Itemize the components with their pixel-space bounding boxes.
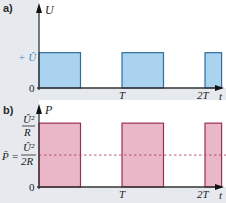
panel-a-y-tick-0: 0 <box>29 82 35 94</box>
panel-b-mean-label-numerator: Û² <box>23 141 35 153</box>
panel-a-x-tick-2T: 2T <box>197 89 210 101</box>
panel-a-y-label: U <box>45 3 55 17</box>
panel-b-pulse-1 <box>122 123 164 187</box>
figure: a) U t 0 + Û T 2T b) P t 0 Û² R P̄ = Û² … <box>0 0 226 203</box>
panel-a-pulse-1 <box>122 53 164 88</box>
panel-a-x-tick-T: T <box>119 89 126 101</box>
panel-b-mean-label-prefix: P̄ = <box>1 150 19 162</box>
panel-a-pulse-2 <box>205 53 222 88</box>
panel-a-label: a) <box>3 2 13 14</box>
panel-b-x-tick-2T: 2T <box>197 188 210 200</box>
panel-b-mean-label-denominator: 2R <box>21 155 34 167</box>
panel-b-x-tick-T: T <box>119 188 126 200</box>
panel-b-y-label: P <box>44 103 53 117</box>
panel-a-y-tick-u-hat: + Û <box>18 51 37 63</box>
panel-b-y-tick-top-numerator: Û² <box>23 113 35 125</box>
panel-b-y-tick-0: 0 <box>29 181 35 193</box>
panel-b-y-tick-top-denominator: R <box>23 126 31 138</box>
panel-b-label: b) <box>3 104 14 116</box>
panel-a-pulse-0 <box>39 53 81 88</box>
